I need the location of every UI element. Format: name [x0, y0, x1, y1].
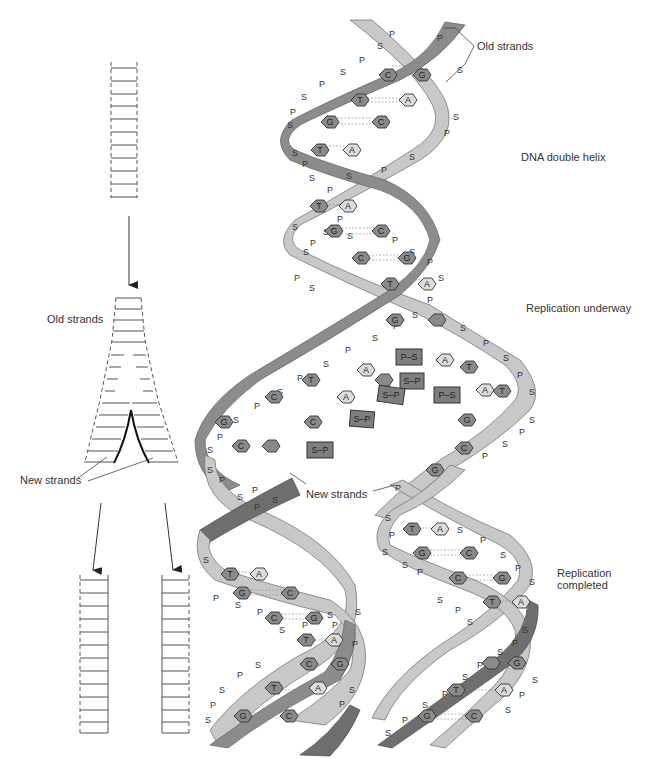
svg-text:S: S: [372, 333, 378, 343]
svg-text:P: P: [512, 638, 518, 648]
svg-text:P: P: [290, 107, 296, 117]
svg-text:S: S: [453, 112, 459, 122]
svg-text:T: T: [227, 569, 233, 579]
svg-text:S: S: [529, 577, 535, 587]
svg-text:T: T: [271, 683, 277, 693]
svg-text:S: S: [385, 513, 391, 523]
svg-text:S: S: [237, 492, 243, 502]
svg-text:P: P: [395, 483, 401, 493]
svg-text:P: P: [210, 700, 216, 710]
svg-text:S: S: [323, 359, 329, 369]
nucleotide-label: P–S: [400, 352, 417, 362]
svg-text:C: C: [286, 711, 293, 721]
svg-text:G: G: [391, 315, 398, 325]
svg-text:C: C: [378, 226, 385, 236]
svg-text:S: S: [279, 625, 285, 635]
svg-text:S: S: [532, 675, 538, 685]
svg-text:A: A: [256, 569, 262, 579]
svg-text:S: S: [377, 41, 383, 51]
label-replication-completed: Replication completed: [557, 567, 611, 591]
dna-replication-diagram: P S P S P S P S S P S P P S S P S P S P …: [0, 0, 650, 759]
svg-text:S: S: [422, 700, 428, 710]
svg-text:T: T: [357, 95, 363, 105]
svg-text:S: S: [462, 672, 468, 682]
svg-text:S: S: [457, 525, 463, 535]
svg-text:T: T: [316, 201, 322, 211]
svg-text:P: P: [437, 33, 443, 43]
svg-text:S: S: [460, 323, 466, 333]
svg-text:P: P: [302, 620, 308, 630]
svg-text:S: S: [529, 415, 535, 425]
svg-text:P: P: [297, 373, 303, 383]
svg-text:S: S: [207, 445, 213, 455]
svg-text:P: P: [213, 593, 219, 603]
svg-text:A: A: [315, 683, 321, 693]
arrow-down-right: [165, 503, 173, 570]
svg-text:S: S: [402, 560, 408, 570]
svg-text:G: G: [238, 588, 245, 598]
svg-text:P: P: [427, 257, 433, 267]
svg-text:C: C: [238, 441, 245, 451]
svg-text:A: A: [482, 385, 488, 395]
svg-text:T: T: [317, 145, 323, 155]
svg-text:C: C: [271, 392, 278, 402]
svg-text:P: P: [257, 607, 263, 617]
label-new-strands-left: New strands: [20, 474, 81, 486]
svg-text:C: C: [378, 117, 385, 127]
svg-text:T: T: [387, 279, 393, 289]
daughter-helix-left: TA GC CG TA CG TA GC SP SP SP SP SP SP S…: [197, 455, 365, 756]
svg-text:P: P: [389, 29, 395, 39]
svg-text:P: P: [402, 715, 408, 725]
svg-text:A: A: [345, 201, 351, 211]
svg-text:S: S: [502, 439, 508, 449]
svg-text:S: S: [203, 555, 209, 565]
svg-text:S: S: [438, 273, 444, 283]
svg-text:P: P: [352, 639, 358, 649]
svg-text:P: P: [217, 432, 223, 442]
svg-text:S: S: [346, 171, 352, 181]
svg-text:P: P: [519, 690, 525, 700]
svg-text:P: P: [389, 530, 395, 540]
svg-text:G: G: [418, 70, 425, 80]
svg-text:S: S: [355, 607, 361, 617]
svg-text:C: C: [471, 711, 478, 721]
svg-text:G: G: [239, 711, 246, 721]
svg-text:C: C: [310, 417, 317, 427]
svg-text:P: P: [417, 567, 423, 577]
svg-text:P: P: [442, 689, 448, 699]
svg-text:P: P: [359, 55, 365, 65]
svg-text:G: G: [403, 253, 410, 263]
svg-text:P: P: [482, 451, 488, 461]
svg-text:C: C: [466, 548, 473, 558]
svg-text:S: S: [235, 600, 241, 610]
svg-text:P: P: [455, 605, 461, 615]
svg-text:P: P: [427, 295, 433, 305]
label-replication-completed-line2: completed: [557, 579, 611, 591]
svg-text:S: S: [467, 617, 473, 627]
svg-text:G: G: [330, 226, 337, 236]
svg-text:G: G: [513, 658, 520, 668]
svg-text:S: S: [437, 595, 443, 605]
svg-text:S: S: [219, 685, 225, 695]
svg-text:G: G: [431, 465, 438, 475]
svg-text:S: S: [503, 353, 509, 363]
svg-text:P: P: [381, 165, 387, 175]
svg-text:S: S: [385, 728, 391, 738]
svg-text:A: A: [424, 279, 430, 289]
svg-text:G: G: [423, 711, 430, 721]
svg-text:G: G: [418, 548, 425, 558]
svg-text:G: G: [220, 417, 227, 427]
schematic-original-ladder: [111, 62, 137, 198]
svg-text:S: S: [205, 715, 211, 725]
svg-text:P: P: [477, 660, 483, 670]
svg-text:S: S: [207, 465, 213, 475]
svg-text:A: A: [518, 597, 524, 607]
svg-text:T: T: [499, 386, 505, 396]
svg-text:G: G: [463, 415, 470, 425]
svg-text:T: T: [466, 362, 472, 372]
label-dna-double-helix: DNA double helix: [521, 151, 605, 163]
schematic-daughter-ladder-left: [80, 575, 108, 733]
svg-text:C: C: [287, 588, 294, 598]
svg-text:S: S: [505, 705, 511, 715]
svg-text:S: S: [255, 660, 261, 670]
